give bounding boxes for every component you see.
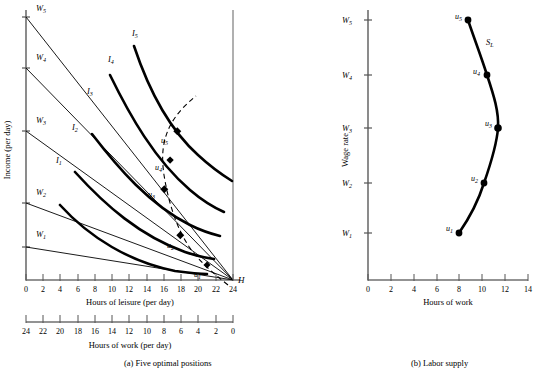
- panel-b-xtick-10: 10: [478, 285, 486, 294]
- xtick2-10: 10: [143, 327, 151, 336]
- panel-a-caption: (a) Five optimal positions: [124, 358, 212, 368]
- panel-b-xtick-0: 0: [366, 285, 370, 294]
- xtick-6: 6: [76, 285, 80, 294]
- labor-supply-curve-label: SL: [486, 37, 494, 48]
- supply-point-u3: [494, 124, 502, 132]
- budget-lines: [26, 17, 233, 280]
- y-tick-label-w4: W4: [36, 52, 46, 63]
- supply-point-u4: [484, 72, 491, 79]
- indifference-curves: [60, 46, 232, 274]
- panel-a-x-axis-label: Hours of leisure (per day): [86, 297, 174, 307]
- xtick2-14: 14: [108, 327, 116, 336]
- supply-point-u5: [465, 17, 472, 24]
- xtick2-6: 6: [179, 327, 183, 336]
- xtick-16: 16: [160, 285, 168, 294]
- xtick-22: 22: [212, 285, 220, 294]
- y-tick-label-w2: W2: [36, 187, 46, 198]
- y-tick-label-w1: W1: [36, 229, 46, 240]
- panel-a: Income (per day) W1 W2 W3 W4 W5: [2, 3, 245, 350]
- panel-b-y-tick-label-w2: W2: [342, 178, 352, 189]
- panel-a-secondary-axis-label: Hours of work (per day): [89, 340, 172, 350]
- panel-b-xtick-12: 12: [501, 285, 509, 294]
- xtick2-8: 8: [162, 327, 166, 336]
- xtick2-20: 20: [56, 327, 64, 336]
- budget-line-w4: [26, 68, 233, 280]
- panel-b-y-tick-label-w4: W4: [342, 70, 352, 81]
- budget-line-w5: [26, 17, 233, 280]
- optimal-point-u2: [176, 231, 184, 239]
- xtick-20: 20: [194, 285, 202, 294]
- optimal-point-label-u4: u4: [155, 163, 162, 173]
- indifference-curve-i2: [75, 172, 214, 259]
- y-tick-label-w5: W5: [36, 3, 46, 14]
- panel-b-xtick-14: 14: [524, 285, 532, 294]
- panel-b-xtick-4: 4: [412, 285, 416, 294]
- xtick2-16: 16: [91, 327, 99, 336]
- panel-b-y-tick-label-w5: W5: [342, 15, 352, 26]
- xtick-4: 4: [58, 285, 62, 294]
- curve-label-i3: I3: [86, 86, 93, 97]
- panel-a-x-ticklabels: 0 2 4 6 8 10 12 14 16 18 20 22 24: [24, 285, 237, 294]
- panel-b: Wage rate W1 W2 W3 W4 W5 u1 u2 u3 u4: [340, 10, 532, 307]
- indifference-curve-i5: [134, 46, 232, 181]
- budget-line-w2: [26, 203, 233, 280]
- xtick2-22: 22: [39, 327, 47, 336]
- panel-b-xtick-2: 2: [389, 285, 393, 294]
- supply-point-label-u4: u4: [473, 67, 480, 77]
- y-tick-label-w3: W3: [36, 115, 46, 126]
- curve-label-i1: I1: [55, 155, 62, 166]
- xtick-24: 24: [229, 285, 237, 294]
- xtick2-4: 4: [196, 327, 200, 336]
- xtick-12: 12: [125, 285, 133, 294]
- supply-point-label-u5: u5: [455, 12, 462, 22]
- xtick-10: 10: [108, 285, 116, 294]
- panel-b-x-ticklabels: 0 2 4 6 8 10 12 14: [366, 285, 532, 294]
- xtick-0: 0: [24, 285, 28, 294]
- xtick-18: 18: [177, 285, 185, 294]
- xtick2-24: 24: [22, 327, 30, 336]
- xtick2-18: 18: [74, 327, 82, 336]
- panel-b-y-tick-label-w3: W3: [342, 123, 352, 134]
- optimal-point-u4: [166, 156, 173, 163]
- labor-supply-curve: [459, 20, 498, 233]
- supply-point-label-u1: u1: [446, 224, 453, 234]
- endowment-label-h: H: [237, 275, 245, 285]
- supply-point-label-u2: u2: [471, 174, 478, 184]
- curve-label-i2: I2: [71, 122, 78, 133]
- panel-a-secondary-ticklabels: 24 22 20 18 16 14 12 10 8 6 4 2 0: [22, 327, 235, 336]
- panel-b-y-axis-label: Wage rate: [340, 133, 350, 167]
- supply-point-u2: [481, 180, 488, 187]
- panel-b-xtick-8: 8: [457, 285, 461, 294]
- curve-label-i5: I5: [131, 28, 138, 39]
- xtick-8: 8: [93, 285, 97, 294]
- panel-b-x-axis-label: Hours of work: [423, 297, 473, 307]
- curve-label-i4: I4: [107, 54, 114, 65]
- xtick2-2: 2: [214, 327, 218, 336]
- panel-b-xtick-6: 6: [435, 285, 439, 294]
- xtick-2: 2: [41, 285, 45, 294]
- panel-b-caption: (b) Labor supply: [411, 358, 468, 368]
- labor-supply-figure: Income (per day) W1 W2 W3 W4 W5: [0, 0, 540, 379]
- panel-b-y-tick-label-w1: W1: [342, 228, 352, 239]
- indifference-curve-labels: I1 I2 I3 I4 I5: [55, 28, 138, 166]
- panel-a-y-axis-label: Income (per day): [2, 121, 12, 180]
- optimal-point-label-u2: u2: [167, 241, 174, 251]
- supply-point-u1: [456, 230, 463, 237]
- optimal-point-label-u5: u5: [161, 136, 168, 146]
- xtick2-0: 0: [231, 327, 235, 336]
- indifference-curve-i3: [92, 134, 220, 236]
- supply-point-label-u3: u3: [485, 119, 492, 129]
- xtick-14: 14: [143, 285, 151, 294]
- optimal-point-label-u3: u3: [148, 190, 155, 200]
- xtick2-12: 12: [125, 327, 133, 336]
